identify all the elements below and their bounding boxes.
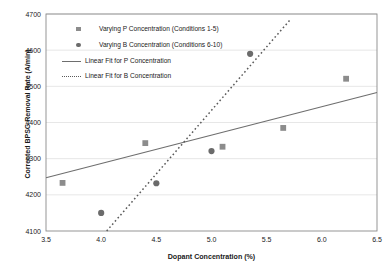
data-point-circle bbox=[247, 51, 253, 57]
legend-marker-solid-line-icon bbox=[62, 61, 81, 62]
data-point-circle bbox=[153, 180, 159, 186]
data-point-square bbox=[343, 76, 349, 82]
data-point-square bbox=[220, 144, 226, 150]
legend-label: Varying B Concentration (Conditions 6-10… bbox=[99, 41, 222, 49]
data-point-square bbox=[60, 180, 66, 186]
legend-label: Varying P Concentration (Conditions 1-5) bbox=[99, 25, 219, 33]
legend-marker-square-icon bbox=[76, 27, 81, 32]
legend-label: Linear Fit for P Concentration bbox=[85, 57, 171, 65]
data-point-square bbox=[280, 125, 286, 131]
data-point-square bbox=[142, 140, 148, 146]
chart-container: Corrected BPSG Removal Rate (A/min) Dopa… bbox=[0, 0, 392, 269]
data-point-circle bbox=[98, 210, 104, 216]
trendline-b bbox=[107, 20, 290, 231]
trendline-p bbox=[46, 92, 377, 177]
legend-marker-circle-icon bbox=[76, 43, 81, 48]
legend-marker-dotted-line-icon bbox=[62, 76, 81, 77]
data-point-circle bbox=[208, 148, 214, 154]
legend-label: Linear Fit for B Concentration bbox=[85, 72, 171, 80]
